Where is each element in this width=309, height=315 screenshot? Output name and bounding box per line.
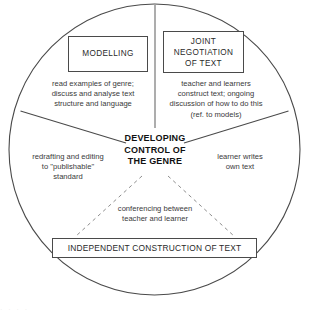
caption-redrafting-line-3: standard: [16, 172, 120, 182]
joint-negotiation-line-1: JOINT: [174, 36, 234, 47]
caption-learner-writes: learner writes own text: [196, 152, 284, 172]
caption-joint-negotiation: teacher and learners construct text; ong…: [152, 79, 280, 120]
caption-modelling-line-2: discuss and analyse text: [33, 89, 153, 99]
caption-learner-writes-line-1: learner writes: [196, 152, 284, 162]
caption-modelling-line-3: structure and language: [33, 99, 153, 109]
caption-redrafting-line-1: redrafting and editing: [16, 152, 120, 162]
caption-joint-negotiation-line-4: (ref. to models): [152, 110, 280, 120]
caption-joint-negotiation-line-2: construct text; ongoing: [152, 89, 280, 99]
node-box-modelling-label: MODELLING: [82, 49, 133, 60]
caption-redrafting-line-2: to "publishable": [16, 162, 120, 172]
caption-redrafting: redrafting and editing to "publishable" …: [16, 152, 120, 183]
joint-negotiation-line-3: OF TEXT: [174, 58, 234, 69]
teaching-learning-cycle-diagram: MODELLING JOINT NEGOTIATION OF TEXT INDE…: [0, 0, 309, 315]
node-box-independent-construction-label: INDEPENDENT CONSTRUCTION OF TEXT: [68, 243, 242, 254]
bottom-crop-artifact: · · · ·: [0, 306, 309, 315]
caption-conferencing: conferencing between teacher and learner: [92, 204, 218, 224]
node-box-joint-negotiation-label: JOINT NEGOTIATION OF TEXT: [174, 36, 234, 69]
caption-modelling-line-1: read examples of genre;: [33, 79, 153, 89]
caption-conferencing-line-1: conferencing between: [92, 204, 218, 214]
center-label-line-1: DEVELOPING: [103, 133, 207, 145]
caption-modelling: read examples of genre; discuss and anal…: [33, 79, 153, 110]
node-box-independent-construction: INDEPENDENT CONSTRUCTION OF TEXT: [52, 238, 257, 258]
caption-joint-negotiation-line-3: discussion of how to do this: [152, 99, 280, 109]
joint-negotiation-line-2: NEGOTIATION: [174, 47, 234, 58]
node-box-modelling: MODELLING: [68, 36, 148, 72]
caption-joint-negotiation-line-1: teacher and learners: [152, 79, 280, 89]
caption-conferencing-line-2: teacher and learner: [92, 214, 218, 224]
diagram-content: MODELLING JOINT NEGOTIATION OF TEXT INDE…: [0, 0, 309, 315]
node-box-joint-negotiation: JOINT NEGOTIATION OF TEXT: [163, 31, 244, 73]
caption-learner-writes-line-2: own text: [196, 162, 284, 172]
